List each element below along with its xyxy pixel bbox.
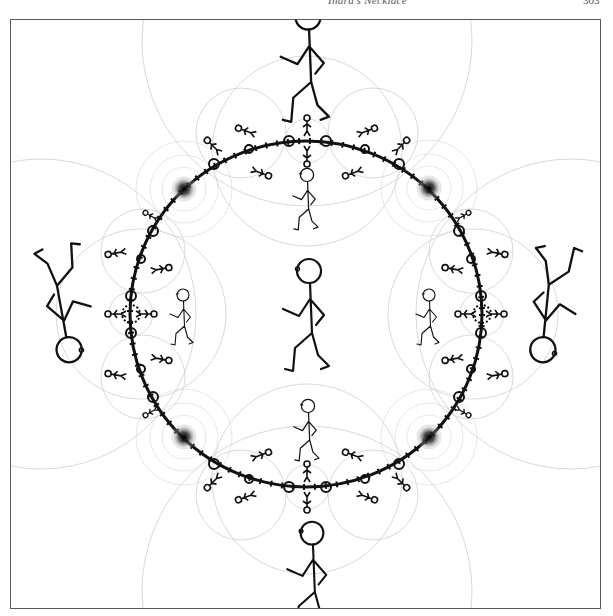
outer-circles [11, 20, 601, 609]
cusp-points [170, 174, 443, 451]
stick-figure-right-outer [520, 243, 584, 366]
stick-figure-right-inner [416, 289, 439, 345]
figure-frame [10, 19, 601, 609]
stick-figure-bottom-outer [287, 522, 331, 609]
stick-figure-top-outer [281, 20, 329, 122]
stick-figure-center [283, 259, 329, 371]
stick-figure-left-outer [34, 242, 98, 365]
mini-walkers [104, 115, 508, 513]
indras-necklace-figure [11, 20, 601, 609]
stick-figure-left-inner [170, 289, 193, 345]
page-number: 303 [583, 0, 600, 6]
stick-figure-top-inner [293, 168, 318, 230]
stick-figure-bottom-inner [294, 399, 319, 461]
running-head: Indra's Necklace [328, 0, 407, 6]
